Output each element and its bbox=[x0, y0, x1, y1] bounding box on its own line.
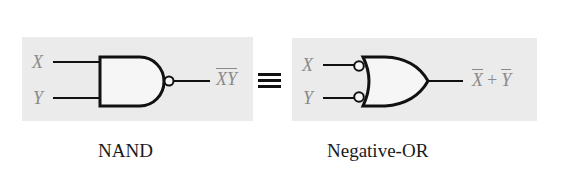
negative-or-gate bbox=[323, 57, 463, 106]
nand-output-expression: XY bbox=[216, 70, 237, 88]
negor-input-x-label: X bbox=[302, 56, 313, 74]
equivalence-symbol bbox=[258, 73, 281, 88]
negative-or-caption: Negative-OR bbox=[327, 141, 428, 161]
negor-output-term-y: Y bbox=[501, 70, 511, 90]
negor-input-y-bubble bbox=[354, 92, 364, 102]
nand-gate-body bbox=[100, 57, 164, 106]
negor-output-expression: X+Y bbox=[472, 71, 511, 89]
negor-input-x-bubble bbox=[354, 61, 364, 71]
negor-output-term-x: X bbox=[472, 70, 483, 90]
nand-output-bubble bbox=[165, 77, 174, 86]
gate-diagram bbox=[0, 0, 562, 184]
nand-caption: NAND bbox=[98, 141, 153, 161]
negor-input-y-label: Y bbox=[303, 89, 313, 107]
negor-output-operator: + bbox=[483, 70, 501, 90]
nand-input-y-label: Y bbox=[33, 89, 43, 107]
negor-gate-body bbox=[363, 57, 428, 106]
nand-input-x-label: X bbox=[32, 53, 43, 71]
nand-gate bbox=[53, 57, 210, 106]
